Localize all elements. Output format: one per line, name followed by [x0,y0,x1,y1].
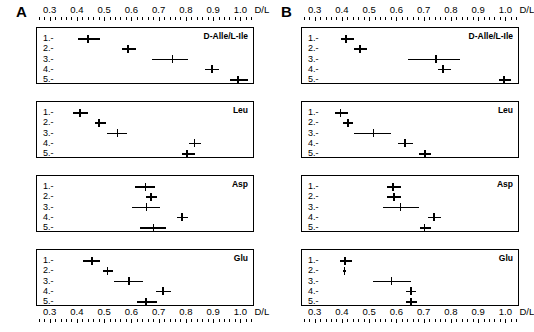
x-tick-label: 0.7 [417,306,430,317]
data-row: 5.- [302,221,518,234]
x-tick-minor [153,17,154,20]
x-tick-minor [445,17,446,20]
x-tick-label: 0.9 [207,306,220,317]
x-tick-minor [326,17,327,20]
x-tick-minor [71,17,72,20]
x-tick-major [505,17,506,21]
x-tick-minor [191,17,192,20]
x-tick-minor [39,319,40,322]
data-row: 5.- [37,73,253,86]
mean-marker [146,203,148,211]
x-tick-minor [413,319,414,322]
x-tick-minor [170,17,171,20]
x-tick-minor [326,319,327,322]
x-tick-label: 0.8 [179,306,192,317]
x-tick-minor [202,17,203,20]
x-tick-minor [66,319,67,322]
range-bar [95,122,106,124]
x-axis-tick-labels: 0.30.40.50.60.70.80.91.0D/L [0,306,265,318]
x-tick-minor [197,319,198,322]
x-tick-major [131,17,132,21]
x-tick-major [213,17,214,21]
x-tick-minor [110,319,111,322]
x-tick-minor [375,319,376,322]
x-tick-minor [224,17,225,20]
x-tick-minor [219,319,220,322]
mean-marker [424,150,426,158]
subplot-d-alle-l-ile: D-Alle/L-Ile1.-2.-3.-4.-5.- [301,27,519,84]
subplot-glu: Glu1.-2.-3.-4.-5.- [301,249,519,306]
x-tick-minor [235,319,236,322]
x-tick-label: 0.9 [207,4,220,15]
x-tick-minor [61,319,62,322]
x-tick-minor [88,17,89,20]
x-tick-label: 0.3 [308,306,321,317]
x-tick-minor [224,319,225,322]
x-tick-major [342,17,343,21]
subplot-glu: Glu1.-2.-3.-4.-5.- [36,249,254,306]
x-tick-minor [229,17,230,20]
mean-marker [145,298,147,306]
x-tick-minor [229,319,230,322]
x-tick-minor [418,319,419,322]
x-tick-minor [336,319,337,322]
x-axis-tickbar [265,17,530,23]
x-tick-minor [462,319,463,322]
mean-marker [87,35,89,43]
data-row: 5.- [302,73,518,86]
x-tick-major [186,17,187,21]
x-tick-minor [489,17,490,20]
x-tick-minor [440,319,441,322]
mean-marker [237,76,239,84]
x-tick-label: 0.3 [43,4,56,15]
range-bar [420,227,432,229]
x-tick-minor [353,17,354,20]
range-bar [182,153,195,155]
x-tick-label: 0.4 [70,306,83,317]
x-tick-minor [347,17,348,20]
mean-marker [503,76,505,84]
x-axis-tickbar [0,17,265,23]
x-tick-minor [180,319,181,322]
mean-marker [373,129,375,137]
x-tick-minor [402,17,403,20]
x-tick-minor [246,319,247,322]
mean-marker [194,139,196,147]
x-tick-minor [93,17,94,20]
x-tick-minor [71,319,72,322]
x-tick-minor [99,17,100,20]
x-tick-minor [120,319,121,322]
x-tick-minor [93,319,94,322]
x-tick-minor [331,319,332,322]
x-tick-minor [467,319,468,322]
mean-marker [433,213,435,221]
x-tick-label: 0.3 [308,4,321,15]
x-tick-minor [88,319,89,322]
x-tick-minor [516,17,517,20]
x-tick-label: 0.6 [390,306,403,317]
x-tick-label: 0.5 [363,306,376,317]
x-tick-minor [473,17,474,20]
x-tick-label: 0.6 [125,4,138,15]
row-label: 5.- [308,221,319,234]
x-tick-minor [391,17,392,20]
x-tick-minor [153,319,154,322]
x-tick-minor [413,17,414,20]
x-tick-minor [148,17,149,20]
x-tick-minor [347,319,348,322]
x-tick-minor [489,319,490,322]
x-axis-unit-label: D/L [519,4,534,15]
x-tick-minor [110,17,111,20]
x-axis-tick-labels: 0.30.40.50.60.70.80.91.0D/L [265,306,530,318]
x-tick-minor [402,319,403,322]
x-tick-minor [320,319,321,322]
mean-marker [435,55,437,63]
mean-marker [400,203,402,211]
x-tick-minor [494,17,495,20]
x-tick-label: 0.4 [335,306,348,317]
x-tick-major [315,17,316,21]
x-tick-major [451,17,452,21]
x-tick-minor [456,319,457,322]
x-tick-minor [494,319,495,322]
mean-marker [344,267,346,275]
